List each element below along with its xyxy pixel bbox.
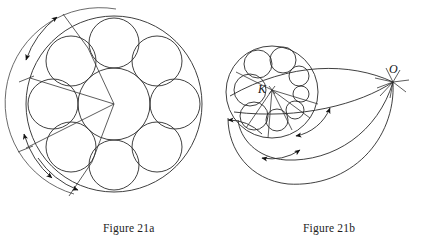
fig21b-radial-line	[272, 90, 292, 130]
fig21a-arc-arrow-bottom	[38, 158, 78, 190]
figure-21a-caption: Figure 21a	[103, 222, 155, 234]
fig21a-radial-line	[92, 104, 114, 162]
fig21a-ring-circle	[46, 36, 96, 86]
point-label-k: K	[258, 82, 266, 97]
fig21b-chain-circle	[293, 86, 309, 102]
fig21a-tick-upper	[19, 76, 34, 82]
fig21a-oblique-line-bottom	[69, 162, 92, 196]
figure-21a-group	[5, 8, 202, 196]
fig21b-radial-line	[272, 90, 318, 104]
point-label-o: O	[389, 62, 398, 77]
fig21a-radial-line	[26, 104, 114, 148]
fig21a-ring-circle	[89, 140, 139, 190]
fig21a-ring-circle	[132, 122, 182, 172]
fig21a-radial-line	[30, 78, 114, 104]
figure-21b-caption: Figure 21b	[303, 222, 355, 234]
figure-sheet: K O Figure 21a Figure 21b	[0, 0, 433, 242]
fig21b-chain-circle	[289, 66, 309, 86]
figure-21b-group	[226, 46, 409, 184]
fig21a-ring-circle	[46, 122, 96, 172]
fig21a-ring-circle	[28, 79, 78, 129]
fig21b-great-arc	[228, 82, 393, 184]
fig21a-oblique-line-top	[63, 14, 88, 48]
fig21a-ring-circle	[89, 18, 139, 68]
fig21b-arc-arrow-lower	[262, 150, 300, 159]
fig21a-outer-measure-arc	[5, 8, 116, 194]
fig21b-chain-circle	[244, 50, 272, 78]
fig21a-ring-circle	[150, 79, 200, 129]
fig21b-chain-circle	[286, 101, 304, 119]
figures-drawing	[0, 0, 433, 242]
fig21a-ring-circle	[132, 36, 182, 86]
fig21b-great-arc	[230, 68, 393, 96]
